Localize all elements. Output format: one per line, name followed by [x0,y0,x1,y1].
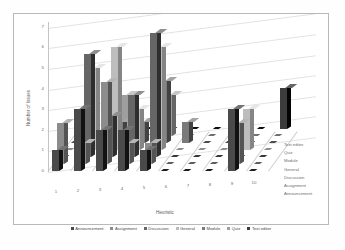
legend-item[interactable]: Discussion [144,226,169,231]
z-tick-label: Discussion [284,175,304,180]
bar-face-side [140,106,144,150]
x-tick-label: 7 [182,183,194,188]
legend-swatch-icon [202,227,205,230]
bar-face-side [108,79,112,164]
x-axis-title: Heuristic [156,210,174,215]
y-tick-label: 5 [32,65,44,70]
chart-container: 01234567 12345678910 Text editorQuizModu… [0,0,345,250]
chart-3d-scene: 01234567 12345678910 Text editorQuizModu… [14,14,330,226]
z-tick-label: General [284,167,299,172]
z-tick-label: Announcement [284,191,312,196]
bar-face-front [96,130,103,171]
bar-face-side [81,107,85,171]
z-tick-label: Text editor [284,142,303,147]
gridline [48,14,316,29]
bar [243,109,250,150]
bar-face-front [228,109,235,171]
z-tick-label: Quiz [284,150,293,155]
bar-face-front [74,109,81,171]
legend-item[interactable]: Assignment [110,226,136,231]
x-tick-label: 4 [116,186,128,191]
y-tick-label: 6 [32,44,44,49]
bar-face-front [280,88,287,129]
bar-face-side [59,148,63,171]
x-tick-label: 1 [50,189,62,194]
z-tick-label: Assignment [284,183,306,188]
bar-face-side [86,141,90,164]
legend-label: Discussion [148,226,168,231]
bar [228,109,235,171]
z-tick-label: Module [284,158,298,163]
bar-face-front [182,122,189,143]
bar-face-side [235,107,239,171]
bar [118,130,125,171]
bar [74,109,81,171]
legend-label: Quiz [232,226,241,231]
legend-swatch-icon [247,227,250,230]
y-axis-line [48,22,49,172]
bar [52,150,59,171]
legend-swatch-icon [144,227,147,230]
y-tick-label: 4 [32,86,44,91]
bar-face-side [152,141,156,164]
bar-face-side [250,106,254,150]
bar-face-side [162,45,166,150]
legend-item[interactable]: Announcement [71,226,104,231]
bar-face-front [118,130,125,171]
bar-face-side [145,120,149,143]
y-tick-label: 3 [32,106,44,111]
x-tick-label: 5 [138,185,150,190]
chart-plot-frame: 01234567 12345678910 Text editorQuizModu… [13,13,329,225]
legend-item[interactable]: Quiz [227,226,240,231]
y-tick-label: 0 [32,168,44,173]
bar-face-side [147,148,151,171]
bar [96,130,103,171]
x-tick-label: 3 [94,187,106,192]
gridline [48,14,316,49]
bar-face-front [52,150,59,171]
bar-face-side [167,79,171,143]
bar-face-side [113,113,117,157]
legend-label: General [180,226,195,231]
legend-item[interactable]: General [176,226,195,231]
legend-label: Text editor [252,226,271,231]
legend-swatch-icon [227,227,230,230]
legend-label: Announcement [75,226,103,231]
bar-face-side [172,92,176,136]
bar-face-side [103,127,107,171]
y-tick-label: 1 [32,147,44,152]
legend-swatch-icon [176,227,179,230]
x-tick-label: 8 [204,182,216,187]
y-tick-label: 7 [32,24,44,29]
y-tick-label: 2 [32,127,44,132]
legend-item[interactable]: Text editor [247,226,271,231]
bar-face-side [189,120,193,143]
bar-face-side [130,141,134,164]
bar [280,88,287,129]
legend-item[interactable]: Module [202,226,220,231]
bar [140,150,147,171]
legend-label: Assignment [115,226,137,231]
bar-face-side [287,85,291,129]
x-tick-label: 2 [72,188,84,193]
bar-face-side [240,120,244,164]
y-axis-title: Number of Issues [26,90,31,126]
legend-label: Module [207,226,221,231]
legend-swatch-icon [71,227,74,230]
legend-swatch-icon [110,227,113,230]
bar-face-side [125,127,129,171]
x-tick-label: 6 [160,184,172,189]
floor-gridline [268,131,298,171]
chart-legend: AnnouncementAssignmentDiscussionGeneralM… [13,226,329,231]
bar-face-front [140,150,147,171]
x-tick-label: 10 [248,180,260,185]
bar-face-front [243,109,250,150]
bar-face-side [64,120,68,164]
bar [182,122,189,143]
x-tick-label: 9 [226,181,238,186]
bar-face-side [135,93,139,157]
